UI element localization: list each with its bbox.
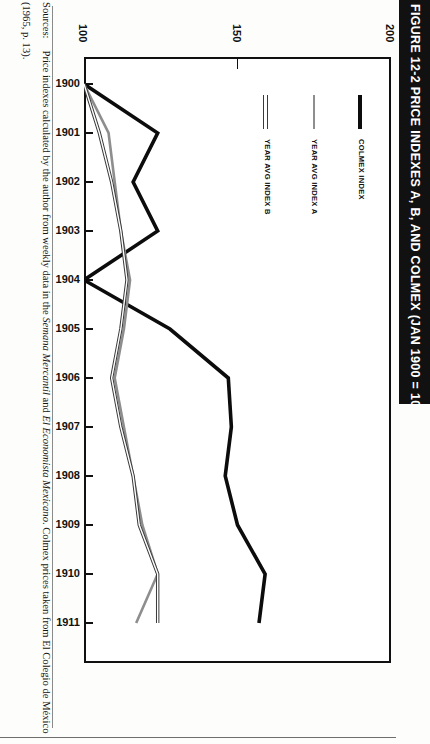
legend-item[interactable]: YEAR AVG INDEX A — [302, 95, 322, 245]
year-axis-label: 1906 — [46, 371, 80, 383]
value-axis-label: 200 — [384, 24, 396, 42]
legend-item-label: YEAR AVG INDEX B — [263, 139, 272, 215]
legend-swatch-icon — [263, 95, 268, 129]
page-bottom-rule — [0, 737, 396, 738]
figure-title-bar: FIGURE 12-2 PRICE INDEXES A, B, AND COLM… — [399, 0, 430, 404]
year-axis-label: 1909 — [46, 518, 80, 530]
legend-swatch-icon — [358, 95, 362, 129]
year-axis-tick — [84, 622, 93, 624]
year-axis-tick — [84, 132, 93, 134]
year-axis-tick — [84, 524, 93, 526]
year-axis-tick — [84, 181, 93, 183]
sources-note: Sources:Price indexes calculated by the … — [8, 2, 52, 702]
year-axis-tick — [84, 279, 93, 281]
year-axis-tick — [84, 230, 93, 232]
legend-swatch-icon — [313, 95, 315, 129]
year-axis-label: 1904 — [46, 273, 80, 285]
year-axis-tick — [84, 573, 93, 575]
value-axis-label: 150 — [231, 24, 243, 42]
year-axis-label: 1900 — [46, 77, 80, 89]
sources-label: Sources: — [41, 2, 52, 38]
year-axis-label: 1903 — [46, 224, 80, 236]
year-axis-label: 1907 — [46, 420, 80, 432]
legend-item-label: COLMEX INDEX — [357, 139, 366, 200]
legend-item[interactable]: COLMEX INDEX — [349, 95, 369, 245]
year-axis-tick — [84, 83, 93, 85]
sources-line-2: (1965, p. 13). — [21, 2, 32, 59]
year-axis-tick — [84, 426, 93, 428]
legend-item-label: YEAR AVG INDEX A — [310, 139, 319, 214]
sources-text-2: and — [41, 395, 52, 416]
year-axis-label: 1911 — [46, 616, 80, 628]
value-axis-tick — [237, 57, 239, 69]
figure-page: FIGURE 12-2 PRICE INDEXES A, B, AND COLM… — [0, 0, 430, 744]
legend-item[interactable]: YEAR AVG INDEX B — [255, 95, 275, 245]
year-axis-tick — [84, 377, 93, 379]
page-title: FIGURE 12-2 PRICE INDEXES A, B, AND COLM… — [408, 0, 422, 404]
year-axis-label: 1901 — [46, 126, 80, 138]
year-axis-label: 1902 — [46, 175, 80, 187]
plot-frame — [84, 57, 391, 663]
year-axis-label: 1908 — [46, 469, 80, 481]
year-axis-label: 1905 — [46, 322, 80, 334]
year-axis-tick — [84, 328, 93, 330]
year-axis-label: 1910 — [46, 567, 80, 579]
value-axis-label: 100 — [77, 24, 89, 42]
year-axis-tick — [84, 475, 93, 477]
